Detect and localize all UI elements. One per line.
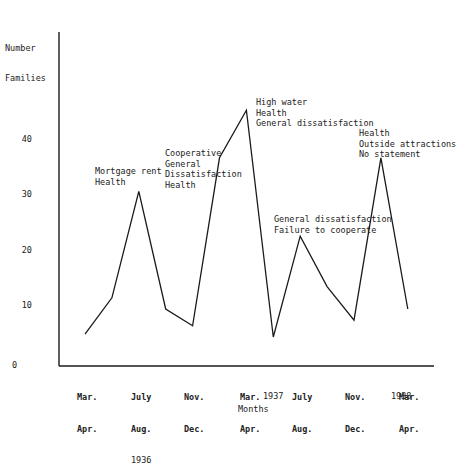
y-tick-0: 0 (0, 360, 17, 370)
annotation-mar-apr-1937: High water Health General dissatisfactio… (256, 97, 374, 129)
annotation-july-aug-1937: General dissatisfaction Failure to coope… (274, 214, 392, 235)
x-tick-mar-apr-1938: Mar. Apr. (399, 371, 419, 445)
y-tick-30: 30 (0, 189, 32, 199)
x-tick-year-1937: 1937 (263, 391, 283, 401)
y-axis-title-line1: Number (5, 43, 46, 53)
annotation-july-aug-1936: Mortgage rent Health (95, 166, 162, 187)
y-tick-40: 40 (0, 134, 32, 144)
y-axis-title: Number Families (5, 23, 46, 93)
y-axis-title-line2: Families (5, 73, 46, 83)
x-tick-nov-dec-1937: Nov. Dec. (345, 371, 365, 445)
x-tick-year-1938: 1938 (391, 391, 411, 401)
x-tick-nov-dec-1936: Nov. Dec. (184, 371, 204, 445)
x-axis-title: Months (238, 404, 269, 414)
annotation-jan-feb-1937: Cooperative General Dissatisfaction Heal… (165, 148, 242, 190)
x-tick-july-aug-1937: July Aug. (292, 371, 312, 445)
y-tick-20: 20 (0, 245, 32, 255)
y-tick-10: 10 (0, 300, 32, 310)
x-tick-mar-apr-1936: Mar. Apr. (77, 371, 97, 445)
annotation-jan-feb-1938: Health Outside attractions No statement (359, 128, 456, 160)
x-tick-july-aug-1936: July Aug. 1936 (131, 371, 151, 467)
